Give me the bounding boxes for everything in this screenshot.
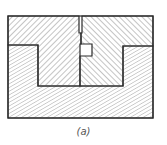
figure-caption: (a) xyxy=(0,126,167,137)
cross-section-diagram xyxy=(0,0,167,145)
